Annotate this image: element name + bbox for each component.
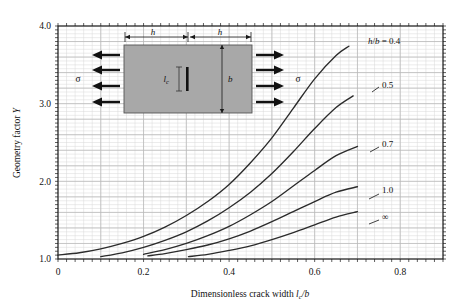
x-tick-label: 0.2 (138, 267, 150, 277)
y-tick-label: 2.0 (39, 177, 51, 187)
y-axis-title: Geometry factor Y (12, 106, 22, 178)
y-tick-label: 4.0 (39, 21, 51, 31)
geometry-factor-chart: 00.20.40.60.8 1.02.03.04.0 b h h (0, 0, 460, 305)
x-tick-label: 0.4 (223, 267, 235, 277)
y-tick-label: 1.0 (39, 254, 51, 264)
y-tick-label: 3.0 (39, 99, 51, 109)
x-tick-label: 0 (56, 267, 61, 277)
sigma-right-label: σ (295, 74, 300, 84)
sigma-left-label: σ (75, 74, 80, 84)
h-left-label: h (151, 27, 156, 37)
x-axis-title: Dimensionless crack width lc/b (191, 289, 310, 300)
curve-label-3: 1.0 (382, 185, 394, 195)
h-right-label: h (218, 27, 223, 37)
crack-mark (186, 67, 189, 91)
figure-container: 00.20.40.60.8 1.02.03.04.0 b h h (0, 0, 460, 305)
b-label: b (228, 74, 233, 84)
curve-label-1: 0.5 (382, 80, 394, 90)
curve-label-4: ∞ (382, 212, 388, 222)
x-tick-label: 0.8 (394, 267, 406, 277)
curve-label-2: 0.7 (382, 139, 394, 149)
curve-label-0: h/b = 0.4 (368, 36, 401, 46)
x-tick-label: 0.6 (309, 267, 321, 277)
